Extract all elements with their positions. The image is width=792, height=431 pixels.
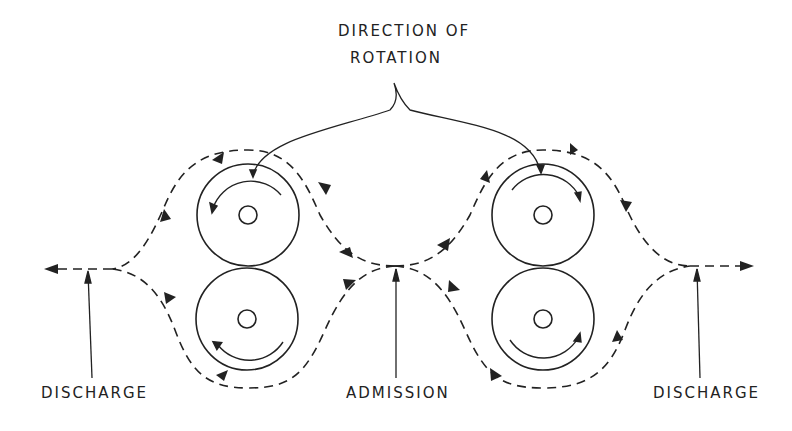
arrow-discharge-right [740, 261, 754, 271]
flow-left-upper [112, 150, 395, 269]
rotor-right-lower [492, 268, 594, 370]
rotation-arrow-left-lower [218, 342, 283, 360]
rotation-leader-line [253, 83, 540, 175]
rotation-arrow-right-lower [510, 338, 578, 358]
rotor-right-upper [492, 164, 594, 266]
left-rotor-pair [196, 164, 299, 370]
title-line-2: ROTATION [350, 49, 442, 67]
rotation-arrow-left-upper [213, 181, 281, 208]
hub-right-lower [534, 310, 552, 328]
leader-discharge-left [88, 272, 92, 378]
leader-discharge-right [697, 269, 700, 378]
arrow-discharge-left [44, 264, 58, 274]
rotor-left-lower [196, 268, 298, 370]
hub-right-upper [534, 206, 552, 224]
rotor-left-upper [197, 164, 299, 266]
hub-left-upper [239, 206, 257, 224]
label-discharge-left: DISCHARGE [41, 384, 148, 402]
label-discharge-right: DISCHARGE [653, 384, 760, 402]
rotation-arrow-right-upper [512, 175, 579, 196]
hub-left-lower [238, 310, 256, 328]
label-admission: ADMISSION [346, 384, 450, 402]
title-line-1: DIRECTION OF [338, 22, 470, 40]
